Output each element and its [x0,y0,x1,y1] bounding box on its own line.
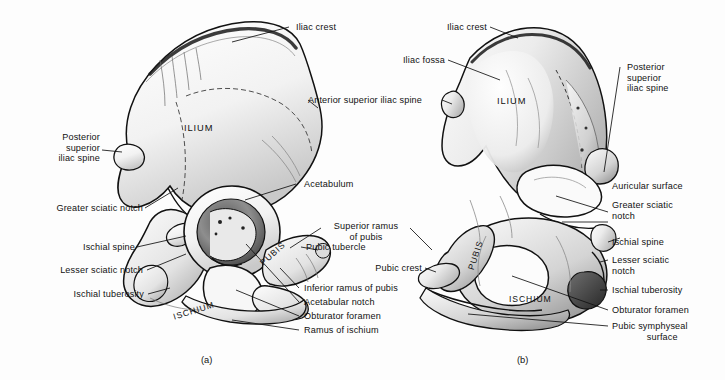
acetabulum-pit-3 [241,226,245,230]
label-a-iliac-crest[interactable]: Iliac crest [296,22,336,33]
label-a-acetabulum[interactable]: Acetabulum [304,179,354,190]
rough-pit-2 [585,127,588,130]
label-b-iliac-fossa[interactable]: Iliac fossa [383,55,445,66]
label-a-lesser-sciatic-notch[interactable]: Lesser sciatic notch [28,265,143,276]
label-b-auricular-surface[interactable]: Auricular surface [612,181,683,192]
label-a-acetabular-notch[interactable]: Acetabular notch [304,297,375,308]
rough-pit-1 [576,106,579,109]
caption-panel-a: (a) [201,355,212,365]
label-b-greater-sciatic-notch[interactable]: Greater sciatic notch [612,200,673,221]
label-a-ischial-tuberosity[interactable]: Ischial tuberosity [40,289,144,300]
label-b-iliac-crest[interactable]: Iliac crest [425,22,487,33]
label-b-posterior-superior-iliac-spine[interactable]: Posterior superior iliac spine [627,62,717,94]
label-b-pubic-symphyseal-surface[interactable]: Pubic symphyseal surface [612,321,688,342]
caption-panel-b: (b) [517,355,528,365]
hip-bone-lateral-view [114,22,330,324]
rough-pit-3 [580,148,583,151]
label-a-anterior-superior-iliac-spine[interactable]: Anterior superior iliac spine [308,95,422,106]
acetabulum-pit-4 [215,233,218,236]
bone-region-ilium-b: ILIUM [497,96,526,106]
label-b-lesser-sciatic-notch[interactable]: Lesser sciatic notch [612,255,669,276]
label-a-inferior-ramus-of-pubis[interactable]: Inferior ramus of pubis [304,283,398,294]
label-a-ramus-of-ischium[interactable]: Ramus of ischium [304,325,379,336]
posterior-superior-iliac-spine-lateral [114,144,144,170]
anterior-superior-iliac-spine-medial [441,91,464,117]
label-a-pubic-tubercle[interactable]: Pubic tubercle [306,242,366,253]
figure-canvas: ILIUM PUBIS ISCHIUM ILIUM PUBIS ISCHIUM … [0,0,725,380]
label-b-ischial-tuberosity[interactable]: Ischial tuberosity [612,285,682,296]
label-b-obturator-foramen[interactable]: Obturator foramen [612,305,689,316]
hip-bone-medial-view [418,28,618,331]
bone-region-ischium-b: ISCHIUM [509,294,552,304]
bone-region-ilium-a: ILIUM [184,123,213,133]
label-a-obturator-foramen[interactable]: Obturator foramen [304,311,381,322]
label-b-pubic-crest[interactable]: Pubic crest [360,263,422,274]
label-a-posterior-superior-iliac-spine[interactable]: Posterior superior iliac spine [12,132,100,164]
acetabulum-pit-2 [228,216,231,219]
label-a-ischial-spine[interactable]: Ischial spine [52,242,135,253]
acetabulum-pit-1 [218,220,222,224]
leader-a-superior-ramus-right [410,228,432,250]
label-a-greater-sciatic-notch[interactable]: Greater sciatic notch [28,203,143,214]
label-b-ischial-spine[interactable]: Ischial spine [612,237,664,248]
label-a-superior-ramus-of-pubis[interactable]: Superior ramus of pubis [327,221,405,242]
